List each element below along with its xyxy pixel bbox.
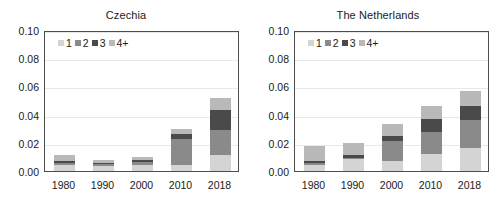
legend-entry-4plus[interactable]: 4+ (109, 38, 129, 49)
bar-czechia-2000 (132, 30, 154, 171)
x-axis-tick-label: 2000 (380, 179, 403, 191)
bar-segment-the-netherlands-2018-4plus (460, 91, 482, 107)
legend-swatch-icon-1 (308, 40, 314, 46)
panel-title-the-netherlands: The Netherlands (252, 9, 504, 21)
legend-swatch-icon-4plus (359, 40, 365, 46)
legend-swatch-icon-3 (92, 40, 98, 46)
y-axis-tick-label: 0.06 (269, 81, 289, 93)
bar-the-netherlands-2000 (382, 30, 404, 171)
x-axis-tick-label: 2010 (419, 179, 442, 191)
bar-segment-czechia-1980-2 (54, 163, 76, 166)
bar-the-netherlands-1980 (304, 30, 326, 171)
legend-label: 1 (66, 38, 72, 49)
x-axis-tick-label: 2018 (458, 179, 481, 191)
legend-label: 2 (333, 38, 339, 49)
panel-czechia: Czechia 0.000.020.040.060.080.1019801990… (0, 0, 252, 206)
bar-segment-czechia-2010-3 (171, 134, 193, 139)
x-axis-tick-label: 1990 (91, 179, 114, 191)
bar-segment-the-netherlands-1980-3 (304, 161, 326, 163)
bar-segment-the-netherlands-2010-1 (421, 154, 443, 171)
legend-czechia: 1234+ (58, 38, 129, 49)
legend-entry-3[interactable]: 3 (342, 38, 356, 49)
legend-entry-1[interactable]: 1 (308, 38, 322, 49)
bar-segment-the-netherlands-2000-2 (382, 141, 404, 161)
legend-entry-4plus[interactable]: 4+ (359, 38, 379, 49)
y-axis-tick-label: 0.00 (19, 166, 39, 178)
plot-area-the-netherlands (294, 31, 489, 172)
legend-label: 4+ (117, 38, 129, 49)
bar-czechia-1980 (54, 30, 76, 171)
bar-segment-the-netherlands-2018-1 (460, 148, 482, 171)
bar-segment-czechia-2018-4plus (210, 98, 232, 111)
legend-entry-3[interactable]: 3 (92, 38, 106, 49)
bar-the-netherlands-1990 (343, 30, 365, 171)
legend-label: 3 (350, 38, 356, 49)
y-axis-tick-label: 0.00 (269, 166, 289, 178)
bar-segment-czechia-1980-3 (54, 161, 76, 162)
legend-swatch-icon-2 (75, 40, 81, 46)
bar-segment-the-netherlands-2018-2 (460, 120, 482, 149)
y-axis-tick-label: 0.02 (19, 138, 39, 150)
bar-segment-czechia-1990-4plus (93, 160, 115, 163)
bar-segment-czechia-2000-1 (132, 165, 154, 171)
legend-swatch-icon-1 (58, 40, 64, 46)
x-axis-tick-label: 1980 (52, 179, 75, 191)
bar-segment-czechia-2010-2 (171, 139, 193, 165)
x-axis-tick-label: 1990 (341, 179, 364, 191)
x-axis-tick-label: 2000 (130, 179, 153, 191)
bar-segment-the-netherlands-2010-3 (421, 119, 443, 132)
bar-the-netherlands-2010 (421, 30, 443, 171)
bar-segment-the-netherlands-1990-4plus (343, 143, 365, 156)
bar-segment-czechia-2000-2 (132, 162, 154, 165)
bar-segment-the-netherlands-1990-3 (343, 155, 365, 157)
y-axis-tick-label: 0.04 (269, 110, 289, 122)
legend-entry-1[interactable]: 1 (58, 38, 72, 49)
bar-segment-czechia-1990-1 (93, 166, 115, 171)
bar-segment-czechia-1980-4plus (54, 155, 76, 161)
plot-area-czechia (44, 31, 239, 172)
bar-segment-czechia-2010-1 (171, 165, 193, 171)
panel-title-czechia: Czechia (0, 9, 252, 21)
y-axis-tick-label: 0.06 (19, 81, 39, 93)
bar-czechia-2018 (210, 30, 232, 171)
legend-swatch-icon-2 (325, 40, 331, 46)
y-axis-tick-label: 0.02 (269, 138, 289, 150)
legend-entry-2[interactable]: 2 (75, 38, 89, 49)
x-axis-tick-label: 1980 (302, 179, 325, 191)
bar-segment-czechia-2000-4plus (132, 157, 154, 161)
bar-segment-czechia-1980-1 (54, 165, 76, 171)
y-axis-tick-label: 0.08 (19, 53, 39, 65)
y-axis-tick-label: 0.04 (19, 110, 39, 122)
bar-segment-the-netherlands-1980-4plus (304, 146, 326, 162)
legend-the-netherlands: 1234+ (308, 38, 379, 49)
bar-segment-czechia-2018-2 (210, 130, 232, 155)
bar-czechia-1990 (93, 30, 115, 171)
legend-label: 2 (83, 38, 89, 49)
bar-segment-the-netherlands-1990-2 (343, 158, 365, 159)
legend-swatch-icon-4plus (109, 40, 115, 46)
panel-the-netherlands: The Netherlands 0.000.020.040.060.080.10… (252, 0, 504, 206)
bar-segment-czechia-1990-3 (93, 163, 115, 164)
legend-label: 4+ (367, 38, 379, 49)
bar-segment-the-netherlands-2000-3 (382, 136, 404, 140)
bar-segment-the-netherlands-2000-4plus (382, 124, 404, 136)
bar-segment-czechia-1990-2 (93, 164, 115, 166)
bar-the-netherlands-2018 (460, 30, 482, 171)
bar-segment-czechia-2018-3 (210, 110, 232, 130)
bar-czechia-2010 (171, 30, 193, 171)
y-axis-tick-label: 0.10 (19, 25, 39, 37)
bar-segment-the-netherlands-2010-4plus (421, 106, 443, 119)
y-axis-tick-label: 0.10 (269, 25, 289, 37)
bar-segment-the-netherlands-2000-1 (382, 161, 404, 171)
bar-segment-the-netherlands-1990-1 (343, 159, 365, 171)
bar-segment-czechia-2010-4plus (171, 129, 193, 135)
x-axis-tick-label: 2010 (169, 179, 192, 191)
bar-segment-the-netherlands-2010-2 (421, 132, 443, 154)
x-axis-tick-label: 2018 (208, 179, 231, 191)
legend-label: 3 (100, 38, 106, 49)
bar-segment-czechia-2018-1 (210, 155, 232, 171)
legend-entry-2[interactable]: 2 (325, 38, 339, 49)
bar-segment-the-netherlands-1980-2 (304, 163, 326, 164)
bar-segment-the-netherlands-2018-3 (460, 106, 482, 119)
figure-stacked-bar-charts: Czechia 0.000.020.040.060.080.1019801990… (0, 0, 504, 206)
